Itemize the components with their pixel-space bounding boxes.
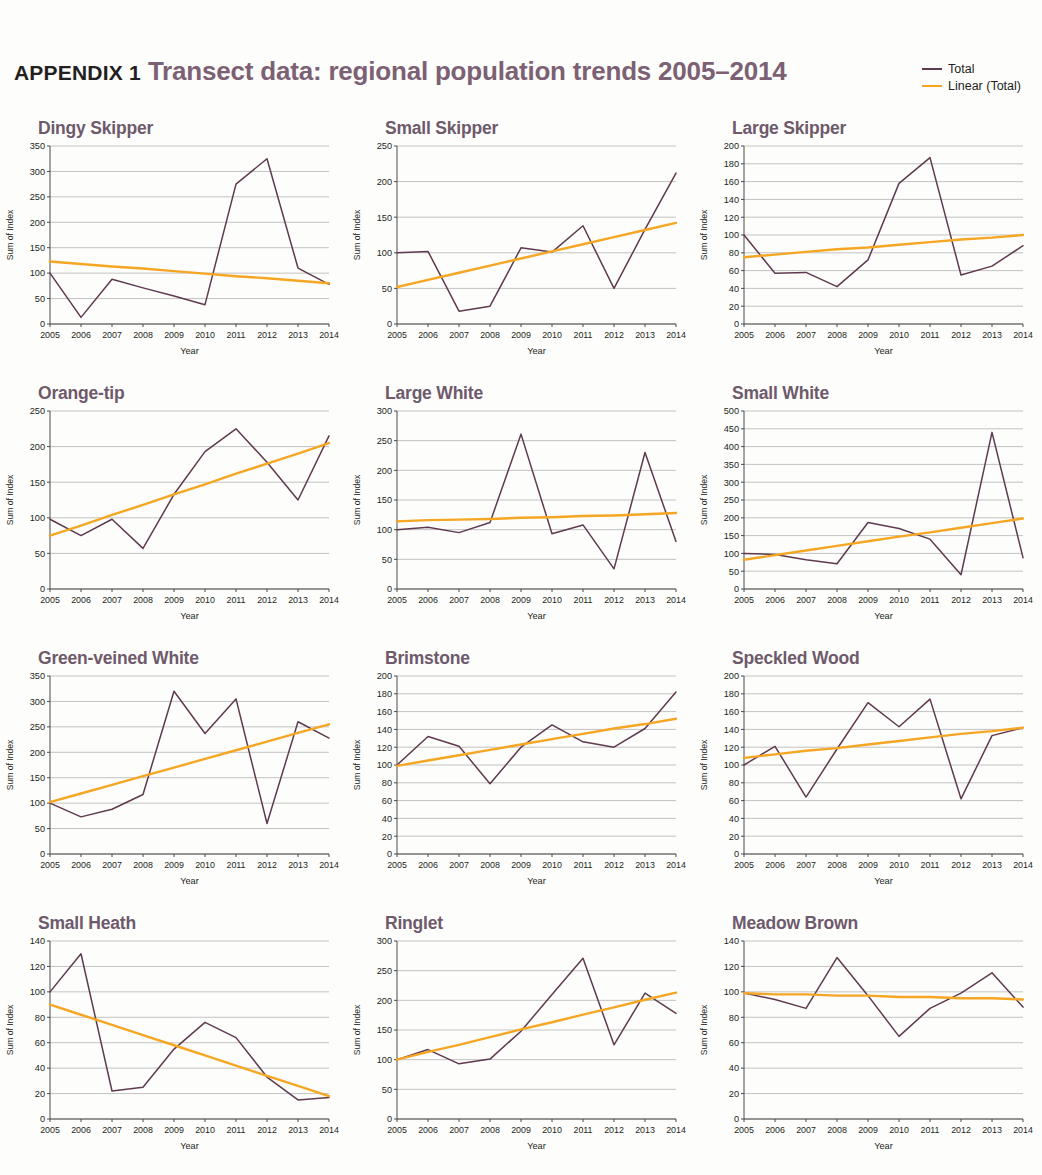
x-axis-tick-label: 2008	[827, 330, 847, 340]
chart-title: Small Heath	[38, 913, 136, 934]
x-axis-tick-label: 2009	[858, 595, 878, 605]
chart-title: Orange-tip	[38, 383, 124, 404]
x-axis-tick-label: 2010	[889, 1125, 909, 1135]
x-axis-tick-label: 2009	[511, 860, 531, 870]
y-axis-tick-label: 100	[377, 1055, 392, 1065]
y-axis-tick-label: 150	[377, 213, 392, 223]
y-axis-tick-label: 100	[377, 248, 392, 258]
x-axis-label: Year	[180, 876, 199, 886]
x-axis-tick-label: 2008	[133, 595, 153, 605]
page-title: APPENDIX 1Transect data: regional popula…	[14, 56, 786, 87]
x-axis-tick-label: 2012	[951, 330, 971, 340]
y-axis-tick-label: 180	[724, 689, 739, 699]
x-axis-tick-label: 2014	[666, 860, 686, 870]
x-axis-tick-label: 2013	[982, 860, 1002, 870]
chart-title: Meadow Brown	[732, 913, 858, 934]
x-axis-tick-label: 2007	[102, 330, 122, 340]
y-axis-tick-label: 160	[724, 177, 739, 187]
x-axis-tick-label: 2012	[257, 330, 277, 340]
x-axis-tick-label: 2012	[951, 860, 971, 870]
figure-legend: TotalLinear (Total)	[922, 60, 1040, 94]
trend-line-series	[50, 1005, 329, 1097]
y-axis-tick-label: 400	[724, 442, 739, 452]
y-axis-tick-label: 250	[724, 495, 739, 505]
trend-line-series	[397, 993, 676, 1060]
y-axis-tick-label: 250	[377, 436, 392, 446]
x-axis-tick-label: 2007	[796, 330, 816, 340]
chart-plot: 0204060801001201401601802002005200620072…	[694, 668, 1041, 900]
x-axis-tick-label: 2008	[827, 1125, 847, 1135]
y-axis-tick-label: 300	[724, 478, 739, 488]
chart-panel: Orange-tip050100150200250200520062007200…	[0, 377, 347, 642]
total-line-series	[50, 159, 329, 318]
x-axis-tick-label: 2011	[573, 1125, 592, 1135]
y-axis-tick-label: 0	[734, 319, 739, 329]
x-axis-tick-label: 2008	[480, 595, 500, 605]
x-axis-tick-label: 2010	[542, 330, 562, 340]
y-axis-tick-label: 100	[377, 525, 392, 535]
x-axis-tick-label: 2012	[257, 595, 277, 605]
y-axis-tick-label: 20	[382, 832, 392, 842]
x-axis-tick-label: 2011	[920, 1125, 939, 1135]
legend-swatch-icon	[922, 85, 942, 87]
x-axis-tick-label: 2010	[889, 330, 909, 340]
x-axis-tick-label: 2013	[288, 330, 308, 340]
y-axis-tick-label: 140	[30, 936, 45, 946]
y-axis-tick-label: 120	[724, 743, 739, 753]
y-axis-tick-label: 20	[729, 302, 739, 312]
x-axis-tick-label: 2007	[102, 595, 122, 605]
x-axis-tick-label: 2007	[796, 1125, 816, 1135]
x-axis-label: Year	[527, 1141, 546, 1151]
x-axis-tick-label: 2014	[666, 1125, 686, 1135]
total-line-series	[50, 954, 329, 1100]
x-axis-tick-label: 2008	[480, 330, 500, 340]
chart-panel: Small White05010015020025030035040045050…	[694, 377, 1041, 642]
trend-line-series	[744, 993, 1023, 999]
x-axis-tick-label: 2005	[734, 595, 754, 605]
x-axis-tick-label: 2014	[1013, 860, 1033, 870]
y-axis-tick-label: 150	[377, 1025, 392, 1035]
x-axis-tick-label: 2007	[449, 330, 469, 340]
y-axis-tick-label: 0	[387, 584, 392, 594]
x-axis-tick-label: 2011	[226, 860, 245, 870]
y-axis-tick-label: 50	[382, 284, 392, 294]
y-axis-tick-label: 50	[35, 824, 45, 834]
x-axis-tick-label: 2006	[765, 595, 785, 605]
x-axis-tick-label: 2014	[319, 330, 339, 340]
x-axis-tick-label: 2013	[635, 330, 655, 340]
y-axis-tick-label: 50	[729, 567, 739, 577]
x-axis-tick-label: 2012	[257, 1125, 277, 1135]
page-header: APPENDIX 1Transect data: regional popula…	[0, 52, 1042, 110]
chart-panel: Speckled Wood020406080100120140160180200…	[694, 642, 1041, 907]
x-axis-tick-label: 2010	[889, 595, 909, 605]
y-axis-tick-label: 20	[729, 1089, 739, 1099]
x-axis-tick-label: 2012	[257, 860, 277, 870]
chart-plot: 0501001502002503003502005200620072008200…	[0, 668, 347, 900]
chart-grid: Dingy Skipper050100150200250300350200520…	[0, 112, 1042, 1175]
y-axis-tick-label: 150	[377, 495, 392, 505]
y-axis-tick-label: 0	[387, 849, 392, 859]
y-axis-tick-label: 0	[387, 1114, 392, 1124]
x-axis-tick-label: 2009	[858, 1125, 878, 1135]
y-axis-tick-label: 100	[30, 987, 45, 997]
y-axis-tick-label: 40	[382, 814, 392, 824]
legend-swatch-icon	[922, 68, 942, 70]
x-axis-label: Year	[180, 1141, 199, 1151]
y-axis-tick-label: 100	[724, 549, 739, 559]
y-axis-tick-label: 350	[30, 671, 45, 681]
y-axis-tick-label: 250	[377, 141, 392, 151]
y-axis-tick-label: 500	[724, 406, 739, 416]
x-axis-tick-label: 2010	[195, 860, 215, 870]
x-axis-tick-label: 2008	[133, 860, 153, 870]
y-axis-tick-label: 40	[729, 284, 739, 294]
x-axis-tick-label: 2010	[889, 860, 909, 870]
y-axis-tick-label: 300	[377, 406, 392, 416]
y-axis-tick-label: 200	[724, 671, 739, 681]
y-axis-label: Sum of Index	[5, 1004, 15, 1055]
x-axis-tick-label: 2010	[542, 1125, 562, 1135]
x-axis-tick-label: 2011	[226, 1125, 245, 1135]
x-axis-tick-label: 2005	[387, 1125, 407, 1135]
x-axis-tick-label: 2013	[288, 1125, 308, 1135]
x-axis-tick-label: 2007	[449, 595, 469, 605]
chart-panel: Green-veined White0501001502002503003502…	[0, 642, 347, 907]
